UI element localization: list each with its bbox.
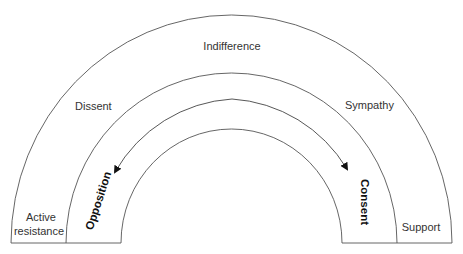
diagram-canvas: Indifference Dissent Sympathy Active res… — [0, 0, 463, 254]
label-resistance: resistance — [14, 225, 64, 237]
label-active: Active — [26, 211, 56, 223]
label-opposition: Opposition — [83, 170, 113, 231]
arrow-to-opposition — [115, 99, 232, 172]
label-consent: Consent — [359, 179, 371, 225]
label-indifference: Indifference — [203, 40, 260, 52]
spectrum-diagram: Indifference Dissent Sympathy Active res… — [0, 0, 463, 254]
arrow-to-consent — [232, 99, 347, 169]
label-sympathy: Sympathy — [345, 99, 394, 111]
label-support: Support — [402, 221, 441, 233]
inner-arc — [121, 129, 342, 243]
label-dissent: Dissent — [75, 100, 112, 112]
